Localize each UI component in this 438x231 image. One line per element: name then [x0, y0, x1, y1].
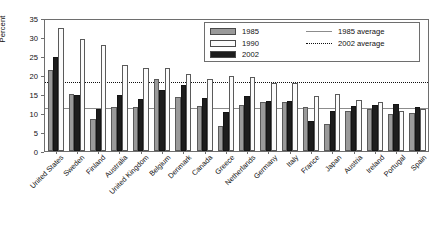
bar-group	[66, 20, 87, 151]
legend-entry-1985: 1985	[210, 27, 306, 36]
bar-1990	[250, 77, 255, 151]
x-axis-tick-label: Japan	[323, 153, 343, 173]
legend-entry-2002-average: 2002 average	[306, 39, 402, 48]
legend-entry-1990: 1990	[210, 39, 306, 48]
bar-1990	[101, 45, 106, 151]
bar-1990	[229, 76, 234, 151]
bar-1990	[420, 109, 425, 151]
bar-group	[88, 20, 109, 151]
y-axis-tick-label: 30	[12, 34, 38, 43]
y-axis-tick-label: 35	[12, 15, 38, 24]
legend-entry-2002: 2002	[210, 50, 306, 59]
x-axis-tick-label: Austria	[342, 153, 364, 175]
legend-entry-1985-average: 1985 average	[306, 27, 402, 36]
legend-line-solid-icon	[306, 28, 332, 35]
bar-1990	[271, 83, 276, 151]
bar-group	[173, 20, 194, 151]
bar-1990	[335, 94, 340, 151]
bar-group	[109, 20, 130, 151]
legend-label-1985-average: 1985 average	[338, 27, 384, 36]
legend-row: 2002	[210, 49, 414, 61]
legend-swatch-1990-icon	[210, 40, 236, 47]
bar-1990	[80, 39, 85, 151]
y-axis-title: Percent	[0, 0, 7, 64]
bar-1990	[314, 96, 319, 151]
bar-1990	[292, 83, 297, 151]
x-axis-tick-label: Italy	[285, 153, 301, 169]
bar-group	[45, 20, 66, 151]
bar-1990	[399, 111, 404, 151]
y-axis-tick-label: 10	[12, 110, 38, 119]
bar-1990	[165, 68, 170, 151]
chart-legend: 1985 1985 average 1990 2002 average 2002	[204, 22, 420, 62]
y-axis-tick-label: 15	[12, 91, 38, 100]
bar-1990	[122, 65, 127, 151]
bar-1990	[207, 79, 212, 151]
x-axis-tick-label: Canada	[190, 153, 214, 177]
legend-row: 1985 1985 average	[210, 26, 414, 38]
y-axis-tick-label: 0	[12, 148, 38, 157]
bar-1990	[378, 102, 383, 151]
y-axis-tick-label: 20	[12, 72, 38, 81]
x-axis-tick-label: United States	[28, 153, 65, 190]
legend-line-dotted-icon	[306, 40, 332, 47]
legend-label-1985: 1985	[242, 27, 259, 36]
bar-chart: Percent 05101520253035 United StatesSwed…	[0, 0, 438, 231]
x-axis-tick-label: Portugal	[382, 153, 408, 179]
legend-swatch-2002-icon	[210, 51, 236, 58]
legend-label-1990: 1990	[242, 39, 259, 48]
x-axis-category-labels: United StatesSwedenFinlandAustraliaUnite…	[44, 153, 429, 227]
legend-label-2002: 2002	[242, 50, 259, 59]
legend-label-2002-average: 2002 average	[338, 39, 384, 48]
x-axis-tick-label: Sweden	[61, 153, 86, 178]
bar-1990	[356, 100, 361, 151]
bar-group	[151, 20, 172, 151]
x-axis-tick-label: Spain	[409, 153, 429, 173]
legend-row: 1990 2002 average	[210, 38, 414, 50]
legend-swatch-1985-icon	[210, 28, 236, 35]
bar-1990	[186, 74, 191, 151]
x-axis-tick-label: France	[299, 153, 321, 175]
bar-1990	[58, 28, 63, 151]
y-axis-tick-label: 25	[12, 53, 38, 62]
bar-group	[130, 20, 151, 151]
bar-1990	[143, 68, 148, 151]
y-axis-tick-label: 5	[12, 129, 38, 138]
